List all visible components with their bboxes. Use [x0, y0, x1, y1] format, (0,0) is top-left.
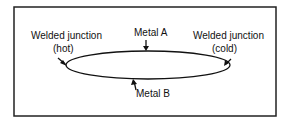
metal-b-arrowhead: [131, 79, 137, 85]
cold-junction-sublabel: (cold): [212, 43, 237, 54]
cold-junction-label: Welded junction: [193, 30, 264, 41]
metal-a-label: Metal A: [134, 27, 167, 38]
wire-loop: [66, 51, 230, 79]
metal-a-arrowhead: [143, 46, 149, 51]
hot-junction-sublabel: (hot): [53, 43, 74, 54]
thermocouple-diagram: [0, 0, 292, 124]
hot-junction-label: Welded junction: [31, 30, 102, 41]
metal-b-label: Metal B: [136, 88, 170, 99]
diagram-border: [14, 7, 276, 116]
